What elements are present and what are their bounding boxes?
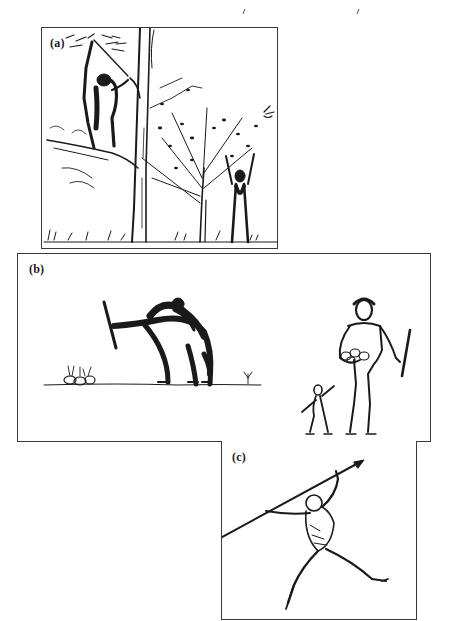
running-head-mark-right <box>356 0 360 5</box>
figure-panel-a: (a) <box>41 27 278 249</box>
tree-foraging-sketch <box>42 28 279 250</box>
running-head-mark-left <box>242 0 246 5</box>
spear-throwing-sketch <box>222 441 418 620</box>
figure-panel-c: (c) <box>221 441 417 620</box>
panel-label-c: (c) <box>232 451 246 463</box>
panel-label-b: (b) <box>29 263 44 275</box>
tuber-gathering-sketch <box>18 254 432 443</box>
figure-panel-b: (b) <box>17 253 431 442</box>
panel-label-a: (a) <box>50 37 65 49</box>
